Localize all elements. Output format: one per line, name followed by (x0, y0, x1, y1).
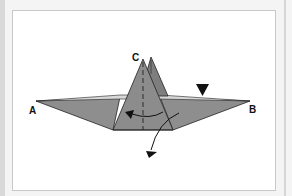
right-wing (160, 97, 250, 130)
left-wing (36, 97, 120, 130)
point-label-b: B (249, 104, 256, 115)
point-label-a: A (29, 105, 36, 116)
fold-down-arrowhead-icon (146, 151, 157, 158)
push-arrow-icon (196, 84, 209, 96)
origami-diagram: A B C (0, 0, 292, 196)
point-label-c: C (132, 52, 139, 63)
